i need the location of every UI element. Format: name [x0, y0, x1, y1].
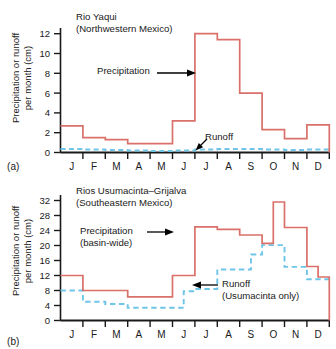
- y-tick-group-a: 12 10 8 6 4 2 0: [39, 28, 60, 158]
- svg-text:M: M: [112, 161, 120, 172]
- svg-text:12: 12: [39, 28, 50, 39]
- x-tick-labels-b: J F M A M J J A S O N D: [69, 329, 322, 340]
- svg-text:S: S: [248, 161, 255, 172]
- x-tick-labels-a: J F M A M J J A S O N D: [69, 161, 322, 172]
- svg-text:J: J: [69, 161, 74, 172]
- svg-text:J: J: [181, 329, 186, 340]
- runoff-label-b: Runoff (Usumacinta only): [222, 278, 299, 301]
- svg-text:2: 2: [45, 127, 50, 138]
- svg-text:S: S: [248, 329, 255, 340]
- svg-text:12: 12: [39, 270, 50, 281]
- svg-text:8: 8: [45, 68, 50, 79]
- svg-text:J: J: [181, 161, 186, 172]
- svg-text:D: D: [314, 329, 321, 340]
- svg-text:O: O: [269, 161, 277, 172]
- svg-text:J: J: [204, 161, 209, 172]
- svg-text:20: 20: [39, 240, 50, 251]
- svg-text:J: J: [204, 329, 209, 340]
- x-tick-group-a: [83, 153, 329, 160]
- plot-area-a: 12 10 8 6 4 2 0: [0, 0, 336, 174]
- svg-text:D: D: [314, 161, 321, 172]
- panel-tag-a: (a): [7, 161, 20, 172]
- svg-text:J: J: [69, 329, 74, 340]
- svg-text:8: 8: [45, 285, 50, 296]
- svg-text:A: A: [136, 329, 143, 340]
- svg-text:0: 0: [45, 315, 50, 326]
- y-tick-group-b: 32 28 24 20 16 12 8 4 0: [39, 195, 60, 326]
- svg-text:F: F: [91, 329, 97, 340]
- svg-text:6: 6: [45, 88, 50, 99]
- svg-text:N: N: [292, 161, 299, 172]
- svg-text:M: M: [157, 329, 165, 340]
- svg-text:16: 16: [39, 255, 50, 266]
- precipitation-series-b: [61, 202, 330, 321]
- svg-text:A: A: [225, 161, 232, 172]
- svg-text:10: 10: [39, 48, 50, 59]
- svg-text:24: 24: [39, 225, 50, 236]
- precipitation-arrow-b: [147, 228, 174, 235]
- svg-text:A: A: [136, 161, 143, 172]
- precipitation-series-a: [61, 34, 330, 153]
- svg-text:M: M: [157, 161, 165, 172]
- svg-text:4: 4: [45, 300, 50, 311]
- svg-text:4: 4: [45, 107, 50, 118]
- figure-precipitation-runoff-mexico: Precipitation or runoff per month (cm) R…: [0, 0, 336, 349]
- svg-text:0: 0: [45, 147, 50, 158]
- svg-text:28: 28: [39, 210, 50, 221]
- chart-title-b: Rios Usumacinta–Grijalva (Southeastern M…: [76, 185, 186, 208]
- svg-text:32: 32: [39, 195, 50, 206]
- runoff-arrow-b: [192, 281, 218, 288]
- precipitation-arrow-a: [157, 69, 196, 76]
- svg-text:N: N: [292, 329, 299, 340]
- panel-b: Precipitation or runoff per month (cm) 3…: [0, 175, 336, 349]
- x-tick-group-b: [83, 321, 329, 328]
- svg-text:M: M: [112, 329, 120, 340]
- svg-text:F: F: [91, 161, 97, 172]
- panel-tag-b: (b): [7, 336, 20, 347]
- svg-text:A: A: [225, 329, 232, 340]
- runoff-series-a: [61, 149, 330, 151]
- panel-a: Precipitation or runoff per month (cm) R…: [0, 0, 336, 174]
- svg-text:O: O: [269, 329, 277, 340]
- precipitation-label-b: Precipitation (basin-wide): [80, 225, 133, 248]
